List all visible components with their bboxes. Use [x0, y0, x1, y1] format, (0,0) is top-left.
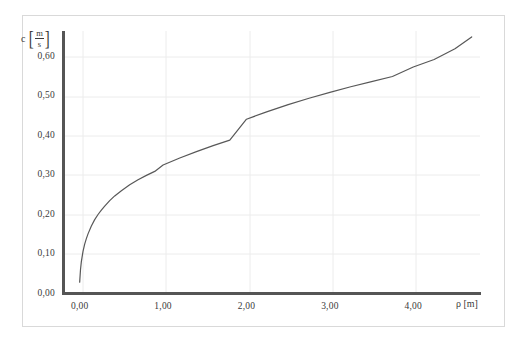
series-line — [80, 37, 472, 282]
plot-area — [63, 31, 480, 294]
y-tick-label: 0,50 — [21, 90, 55, 100]
data-curve — [63, 31, 480, 294]
x-tick-label: 4,00 — [393, 301, 433, 311]
y-tick-label: 0,30 — [21, 169, 55, 179]
y-axis-spine — [62, 31, 65, 295]
y-axis-symbol: c — [21, 33, 25, 44]
x-tick-label: 2,00 — [226, 301, 266, 311]
y-axis-title: c [ m s ] — [21, 29, 50, 48]
y-tick-label: 0,40 — [21, 130, 55, 140]
y-tick-label: 0,20 — [21, 209, 55, 219]
y-tick-label: 0,10 — [21, 248, 55, 258]
unit-fraction: m s — [35, 29, 44, 48]
unit-numerator: m — [35, 29, 44, 38]
unit-denominator: s — [37, 39, 42, 48]
y-tick-label: 0,00 — [21, 288, 55, 298]
bracket-left: [ — [29, 32, 34, 45]
x-tick-label: 0,00 — [60, 301, 100, 311]
x-axis-title: ρ [m] — [456, 298, 478, 309]
x-tick-label: 1,00 — [143, 301, 183, 311]
bracket-right: ] — [45, 32, 50, 45]
x-axis-spine — [62, 292, 481, 295]
chart-figure: c [ m s ] ρ [m] 0,000,100,200,300,400,50… — [0, 0, 518, 340]
y-tick-label: 0,60 — [21, 51, 55, 61]
y-axis-unit: [ m s ] — [28, 29, 50, 48]
x-tick-label: 3,00 — [310, 301, 350, 311]
